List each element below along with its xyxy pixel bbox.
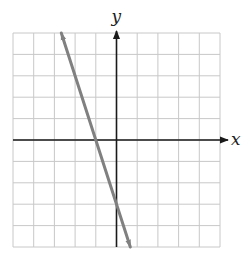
coordinate-plane: x y (0, 0, 245, 263)
y-axis-label: y (111, 6, 122, 26)
x-axis-label: x (231, 129, 241, 149)
